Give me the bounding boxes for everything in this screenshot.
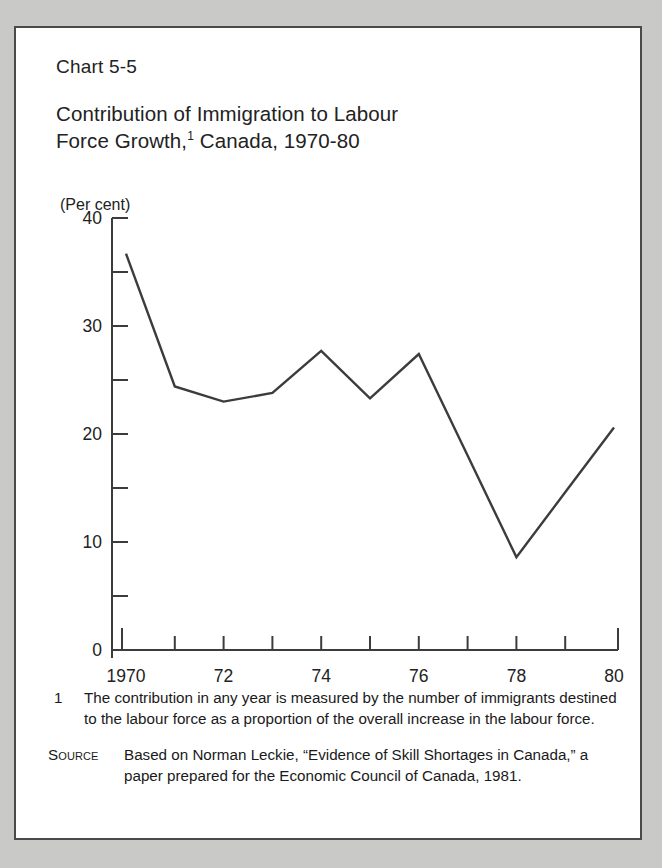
source-note: Source Based on Norman Leckie, “Evidence… <box>48 745 623 786</box>
footnotes-block: 1 The contribution in any year is measur… <box>48 688 623 786</box>
footnote-1-marker: 1 <box>48 688 84 709</box>
y-tick-label: 20 <box>83 424 103 444</box>
y-axis: 010203040 <box>83 208 128 660</box>
x-tick-label: 72 <box>214 666 233 686</box>
x-tick-label: 76 <box>409 666 428 686</box>
y-tick-label: 10 <box>83 532 103 552</box>
footnote-1-text: The contribution in any year is measured… <box>84 688 623 729</box>
footnote-1: 1 The contribution in any year is measur… <box>48 688 623 729</box>
series-line <box>126 254 614 557</box>
source-label: Source <box>48 745 124 766</box>
y-tick-label: 30 <box>83 316 103 336</box>
data-series <box>126 254 614 557</box>
x-axis: 19707274767880 <box>107 628 624 686</box>
chart-card: Chart 5-5 Contribution of Immigration to… <box>14 26 642 840</box>
x-tick-label: 74 <box>311 666 331 686</box>
x-tick-label: 80 <box>604 666 624 686</box>
source-text: Based on Norman Leckie, “Evidence of Ski… <box>124 745 623 786</box>
x-tick-label: 78 <box>507 666 526 686</box>
y-tick-label: 40 <box>83 208 103 228</box>
x-tick-label: 1970 <box>107 666 146 686</box>
line-chart-svg: 010203040 19707274767880 <box>16 28 644 728</box>
y-tick-label: 0 <box>92 640 102 660</box>
